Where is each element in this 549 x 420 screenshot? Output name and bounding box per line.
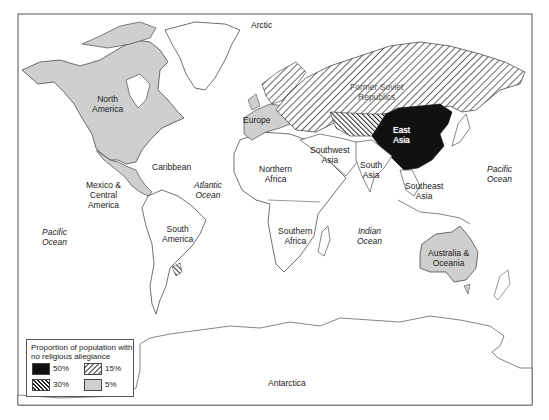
label-mexico-central-america: Mexico & Central America — [86, 180, 121, 210]
legend-swatch-30 — [32, 379, 50, 391]
label-indian-ocean: Indian Ocean — [357, 226, 382, 246]
label-europe: Europe — [243, 115, 270, 125]
label-northern-africa: Northern Africa — [259, 164, 292, 184]
label-east-asia: East Asia — [393, 125, 410, 145]
label-south-america: South America — [162, 224, 193, 244]
legend: Proportion of population with no religio… — [26, 339, 134, 397]
label-pacific-ocean-west: Pacific Ocean — [42, 227, 67, 247]
legend-swatch-15 — [84, 363, 102, 375]
label-southwest-asia: Southwest Asia — [310, 145, 350, 165]
legend-swatch-50 — [32, 363, 50, 375]
label-former-soviet: Former Soviet Republics — [350, 82, 403, 102]
label-atlantic-ocean: Atlantic Ocean — [194, 180, 222, 200]
label-south-asia: South Asia — [360, 160, 382, 180]
label-north-america: North America — [92, 94, 123, 114]
label-arctic: Arctic — [251, 20, 272, 30]
legend-label-50: 50% — [53, 364, 69, 373]
legend-label-15: 15% — [105, 364, 121, 373]
legend-label-30: 30% — [53, 380, 69, 389]
label-australia-oceania: Australia & Oceania — [428, 248, 469, 268]
legend-label-5: 5% — [105, 380, 117, 389]
legend-swatch-5 — [84, 379, 102, 391]
label-southeast-asia: Southeast Asia — [405, 181, 443, 201]
legend-title: Proportion of population with no religio… — [31, 343, 132, 361]
label-antarctica: Antarctica — [268, 378, 306, 388]
label-southern-africa: Southern Africa — [278, 226, 313, 246]
label-pacific-ocean-east: Pacific Ocean — [487, 164, 512, 184]
label-caribbean: Caribbean — [152, 162, 191, 172]
